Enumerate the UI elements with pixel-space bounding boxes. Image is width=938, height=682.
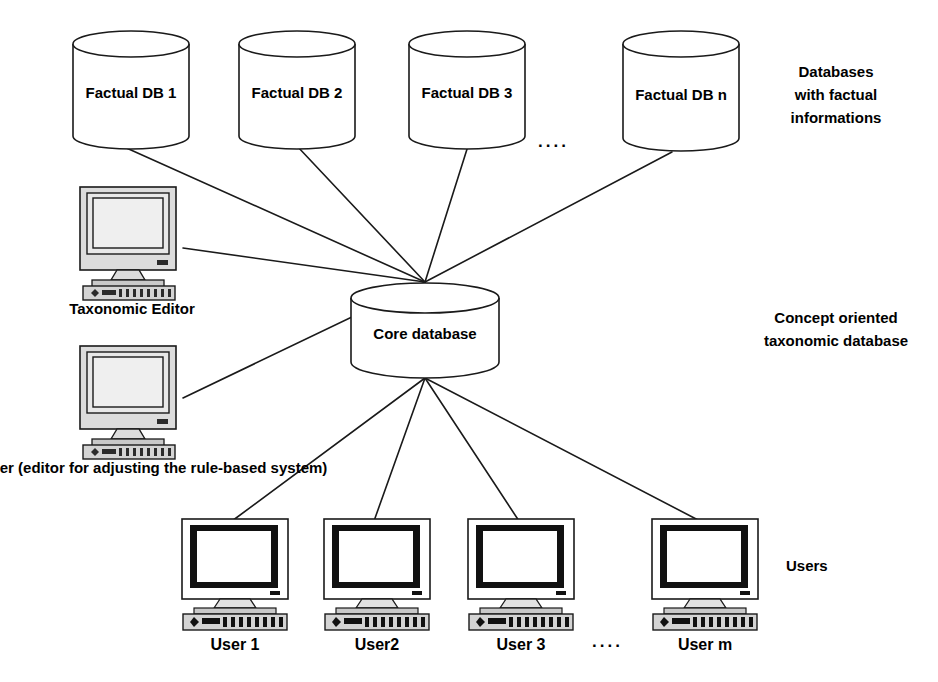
users-annotation: Users bbox=[786, 555, 906, 577]
users-ellipsis: .... bbox=[592, 632, 623, 652]
user-workstation-2[interactable]: User2 bbox=[320, 518, 434, 668]
user-workstation-icon bbox=[464, 518, 578, 630]
architecture-diagram: Factual DB 1 Factual DB 2 Factual DB 3 F… bbox=[0, 0, 938, 682]
link-core-userm bbox=[425, 378, 700, 521]
user-workstation-label: User m bbox=[678, 636, 732, 654]
workstation-icon bbox=[70, 186, 194, 298]
user-workstation-m[interactable]: User m bbox=[648, 518, 762, 668]
workstation-label: Taxonomic Editor bbox=[69, 300, 195, 317]
core-database-label: Core database bbox=[350, 325, 500, 342]
user-workstation-icon bbox=[648, 518, 762, 630]
user-workstation-icon bbox=[320, 518, 434, 630]
database-factual-db-3[interactable]: Factual DB 3 bbox=[408, 30, 526, 150]
link-db2-core bbox=[297, 146, 425, 282]
link-core-user1 bbox=[232, 378, 425, 521]
workstation-label: Rule Tuner (editor for adjusting the rul… bbox=[0, 459, 327, 476]
databases-annotation: Databases with factual informations bbox=[746, 60, 926, 129]
link-core-user2 bbox=[374, 378, 425, 521]
user-workstation-3[interactable]: User 3 bbox=[464, 518, 578, 668]
user-workstation-icon bbox=[178, 518, 292, 630]
workstation-icon bbox=[70, 345, 194, 457]
link-db3-core bbox=[425, 146, 468, 282]
user-workstation-label: User2 bbox=[355, 636, 399, 654]
link-dbn-core bbox=[425, 152, 672, 282]
databases-ellipsis: .... bbox=[538, 132, 569, 152]
database-label: Factual DB 1 bbox=[72, 84, 190, 101]
database-factual-db-1[interactable]: Factual DB 1 bbox=[72, 30, 190, 150]
core-database[interactable]: Core database bbox=[350, 282, 500, 380]
database-label: Factual DB 2 bbox=[238, 84, 356, 101]
database-label: Factual DB n bbox=[622, 86, 740, 103]
user-workstation-label: User 3 bbox=[497, 636, 546, 654]
core-database-annotation: Concept oriented taxonomic database bbox=[738, 306, 934, 352]
workstation-taxonomic-editor[interactable]: Taxonomic Editor bbox=[70, 186, 194, 306]
database-factual-db-2[interactable]: Factual DB 2 bbox=[238, 30, 356, 150]
workstation-rule-tuner[interactable]: Rule Tuner (editor for adjusting the rul… bbox=[70, 345, 194, 525]
link-core-user3 bbox=[425, 378, 519, 521]
database-label: Factual DB 3 bbox=[408, 84, 526, 101]
user-workstation-1[interactable]: User 1 bbox=[178, 518, 292, 668]
user-workstation-label: User 1 bbox=[211, 636, 260, 654]
database-factual-db-n[interactable]: Factual DB n bbox=[622, 30, 740, 152]
